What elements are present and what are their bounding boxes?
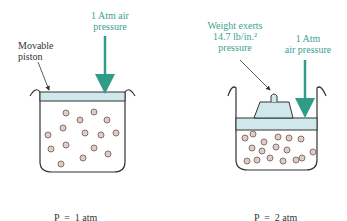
right-equations: P = 2 atm V = 0.5 L — [254, 190, 298, 221]
label-line: 14.7 lb/in.² — [200, 31, 270, 42]
label-line: Weight exerts — [200, 20, 270, 31]
weight-handle — [271, 94, 277, 102]
label-line: piston — [18, 51, 54, 62]
right-piston — [236, 118, 317, 130]
pressure-equation: P = 2 atm — [254, 212, 298, 221]
label-line: 1 Atm — [278, 33, 338, 44]
label-line: pressure — [80, 21, 140, 32]
label-line: 1 Atm air — [80, 10, 140, 21]
label-line: pressure — [200, 42, 270, 53]
left-air-pressure-label: 1 Atm air pressure — [80, 10, 140, 32]
label-line: air pressure — [278, 44, 338, 55]
right-air-pressure-label: 1 Atm air pressure — [278, 33, 338, 55]
right-gas-particles — [242, 131, 316, 164]
left-equations: P = 1 atm V = 1 L — [54, 190, 97, 221]
movable-piston-label: Movable piston — [18, 40, 54, 62]
weight-pointer-arrow — [240, 60, 270, 90]
piston-pointer-arrow — [38, 62, 49, 90]
left-gas-particles — [45, 109, 119, 167]
pressure-equation: P = 1 atm — [54, 212, 97, 221]
right-container — [228, 60, 326, 170]
left-piston — [40, 92, 125, 101]
weight-label: Weight exerts 14.7 lb/in.² pressure — [200, 20, 270, 53]
weight-block — [254, 102, 293, 118]
label-line: Movable — [18, 40, 54, 51]
